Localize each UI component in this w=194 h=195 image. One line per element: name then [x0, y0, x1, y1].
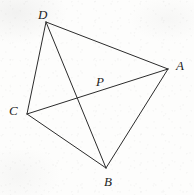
segments-group — [27, 22, 168, 168]
vertex-label-P: P — [96, 75, 104, 88]
vertex-label-A: A — [176, 59, 184, 72]
segment-DB — [46, 22, 106, 168]
geometry-figure: D A P C B — [0, 0, 194, 195]
vertex-label-D: D — [38, 8, 47, 21]
segment-CB — [27, 114, 106, 168]
segment-BA — [106, 69, 168, 168]
vertex-label-C: C — [9, 104, 18, 117]
vertex-label-B: B — [104, 175, 112, 188]
figure-canvas — [0, 0, 194, 195]
segment-DA — [46, 22, 168, 69]
segment-DC — [27, 22, 46, 114]
